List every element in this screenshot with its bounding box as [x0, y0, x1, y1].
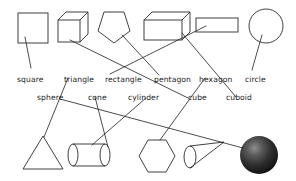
- label-rectangle[interactable]: rectangle: [105, 75, 142, 84]
- circle-shape[interactable]: [249, 9, 283, 43]
- label-triangle[interactable]: triangle: [64, 75, 94, 84]
- label-sphere[interactable]: sphere: [37, 93, 64, 102]
- cube-shape[interactable]: [58, 12, 88, 42]
- square-shape[interactable]: [18, 13, 48, 43]
- label-cube[interactable]: cube: [188, 93, 207, 102]
- worksheet-canvas: [0, 0, 296, 181]
- match-line-cone[interactable]: [95, 97, 108, 147]
- match-line-triangle[interactable]: [44, 78, 68, 137]
- label-circle[interactable]: circle: [245, 75, 266, 84]
- triangle-shape[interactable]: [23, 136, 63, 169]
- label-square[interactable]: square: [17, 75, 43, 84]
- sphere-shape[interactable]: [240, 136, 278, 174]
- cone-shape[interactable]: [184, 142, 224, 168]
- match-line-cylinder[interactable]: [92, 98, 146, 145]
- match-line-square[interactable]: [25, 37, 31, 68]
- match-line-sphere[interactable]: [60, 99, 243, 148]
- match-line-cuboid[interactable]: [182, 33, 236, 97]
- cuboid-shape[interactable]: [144, 12, 190, 40]
- label-cuboid[interactable]: cuboid: [226, 93, 252, 102]
- match-line-rectangle[interactable]: [110, 26, 206, 74]
- shape-matching-worksheet: square triangle rectangle pentagon hexag…: [0, 0, 296, 181]
- label-hexagon[interactable]: hexagon: [199, 75, 232, 84]
- label-pentagon[interactable]: pentagon: [154, 75, 191, 84]
- rectangle-shape[interactable]: [196, 18, 238, 32]
- hexagon-shape[interactable]: [139, 140, 175, 172]
- match-line-cube[interactable]: [70, 40, 188, 98]
- cylinder-shape[interactable]: [68, 144, 110, 166]
- label-cone[interactable]: cone: [88, 93, 107, 102]
- label-cylinder[interactable]: cylinder: [128, 93, 159, 102]
- match-line-pentagon[interactable]: [122, 35, 159, 75]
